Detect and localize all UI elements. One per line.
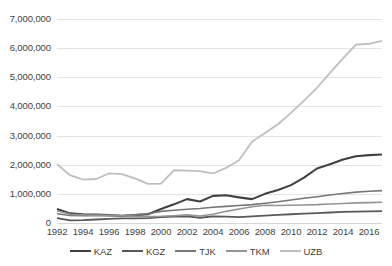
line-chart: 01,000,0002,000,0003,000,0004,000,0005,0… [0, 0, 392, 266]
x-tick-label: 2008 [255, 226, 276, 238]
legend-label: UZB [304, 246, 323, 257]
legend-swatch-icon [280, 250, 301, 252]
y-tick-label: 6,000,000 [10, 43, 51, 53]
legend-label: KGZ [146, 246, 165, 257]
y-tick-label: 7,000,000 [10, 14, 51, 24]
x-tick-label: 1992 [47, 226, 68, 238]
x-tick-label: 1998 [125, 226, 146, 238]
x-tick-label: 2006 [229, 226, 250, 238]
x-tick-label: 2010 [281, 226, 302, 238]
legend-label: TKM [250, 246, 270, 257]
legend-label: TJK [199, 246, 216, 257]
legend-item-kgz[interactable]: KGZ [122, 246, 165, 257]
legend-swatch-icon [70, 250, 91, 252]
legend-item-tjk[interactable]: TJK [175, 246, 216, 257]
y-tick-label: 3,000,000 [10, 131, 51, 141]
legend-swatch-icon [226, 250, 247, 252]
x-tick-label: 1994 [73, 226, 94, 238]
x-tick-label: 2004 [203, 226, 224, 238]
x-tick-label: 1996 [99, 226, 120, 238]
legend-item-tkm[interactable]: TKM [226, 246, 270, 257]
x-tick-label: 2014 [333, 226, 354, 238]
x-tick-label: 2016 [359, 226, 380, 238]
y-tick-label: 5,000,000 [10, 72, 51, 82]
chart-legend: KAZKGZTJKTKMUZB [0, 243, 392, 259]
gridline [57, 223, 382, 224]
x-tick-label: 2012 [307, 226, 328, 238]
series-lines [57, 19, 382, 223]
y-tick-label: 1,000,000 [10, 189, 51, 199]
x-tick-label: 2000 [151, 226, 172, 238]
y-tick-label: 4,000,000 [10, 101, 51, 111]
plot-area [57, 19, 382, 223]
legend-item-uzb[interactable]: UZB [280, 246, 323, 257]
x-axis: 1992199419961998200020022004200620082010… [57, 226, 382, 240]
y-tick-label: 2,000,000 [10, 160, 51, 170]
legend-label: KAZ [94, 246, 112, 257]
legend-swatch-icon [175, 250, 196, 252]
x-tick-label: 2002 [177, 226, 198, 238]
legend-item-kaz[interactable]: KAZ [70, 246, 112, 257]
legend-swatch-icon [122, 250, 143, 252]
